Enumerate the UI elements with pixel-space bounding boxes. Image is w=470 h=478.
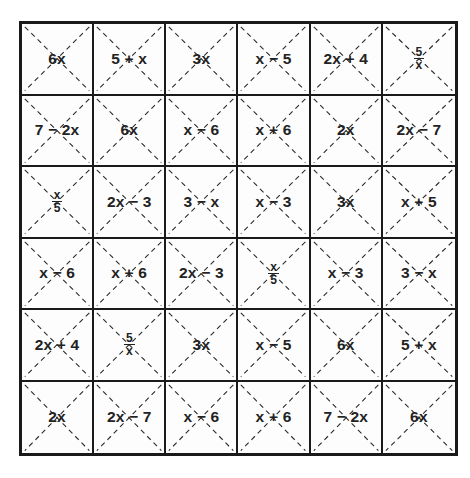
- expression-label: 6x: [337, 336, 355, 354]
- grid-cell-r5-c6: 5 + x: [383, 310, 455, 382]
- expression-label: 2x − 3: [107, 193, 152, 211]
- grid-cell-r1-c4: x − 5: [238, 24, 310, 96]
- grid-cell-r4-c1: x − 6: [22, 239, 94, 311]
- grid-cell-r6-c5: 7 − 2x: [311, 382, 383, 454]
- grid-cell-r2-c2: 6x: [94, 96, 166, 168]
- fraction-denominator: 5: [52, 202, 63, 214]
- grid-cell-r1-c6: 5x: [383, 24, 455, 96]
- expression-label: x + 5: [401, 193, 437, 211]
- grid-cell-r3-c5: 3x: [311, 167, 383, 239]
- grid-cell-r2-c3: x − 6: [166, 96, 238, 168]
- grid-cell-r2-c4: x + 6: [238, 96, 310, 168]
- fraction-denominator: x: [124, 345, 135, 357]
- grid-cell-r4-c5: x − 3: [311, 239, 383, 311]
- grid-cell-r6-c2: 2x − 7: [94, 382, 166, 454]
- expression-label: x − 5: [256, 336, 292, 354]
- grid-cell-r6-c3: x − 6: [166, 382, 238, 454]
- expression-label: 3 − x: [183, 193, 219, 211]
- grid-cell-r2-c6: 2x − 7: [383, 96, 455, 168]
- grid-cell-r5-c3: 3x: [166, 310, 238, 382]
- fraction-numerator: x: [268, 261, 279, 274]
- grid-cell-r6-c6: 6x: [383, 382, 455, 454]
- grid-cell-r2-c1: 7 − 2x: [22, 96, 94, 168]
- grid-cell-r4-c3: 2x − 3: [166, 239, 238, 311]
- expression-label: 6x: [48, 50, 66, 68]
- expression-label: 3x: [193, 50, 211, 68]
- grid-cell-r4-c2: x + 6: [94, 239, 166, 311]
- expression-label: 2x − 7: [107, 408, 152, 426]
- grid-cell-r4-c4: x5: [238, 239, 310, 311]
- fraction-denominator: 5: [268, 274, 279, 286]
- expression-grid-puzzle: 6x5 + x3xx − 52x + 45x7 − 2x6xx − 6x + 6…: [19, 21, 458, 456]
- grid-cell-r1-c1: 6x: [22, 24, 94, 96]
- fraction-denominator: x: [414, 59, 425, 71]
- expression-label: x + 6: [256, 121, 292, 139]
- expression-label: x − 6: [39, 264, 75, 282]
- grid-cell-r3-c3: 3 − x: [166, 167, 238, 239]
- expression-label: 2x: [337, 121, 355, 139]
- expression-label: x − 6: [183, 121, 219, 139]
- expression-label: x − 6: [183, 408, 219, 426]
- grid-cell-r6-c1: 2x: [22, 382, 94, 454]
- expression-label: 2x − 7: [397, 121, 442, 139]
- fraction-expression: 5x: [124, 332, 135, 357]
- grid-cell-r3-c6: x + 5: [383, 167, 455, 239]
- expression-label: 5 + x: [111, 50, 147, 68]
- grid-cell-r5-c4: x − 5: [238, 310, 310, 382]
- expression-label: 7 − 2x: [323, 408, 368, 426]
- expression-label: 3x: [193, 336, 211, 354]
- expression-label: 3 − x: [401, 264, 437, 282]
- expression-label: 3x: [337, 193, 355, 211]
- expression-label: 5 + x: [401, 336, 437, 354]
- grid-cell-r6-c4: x + 6: [238, 382, 310, 454]
- grid-cell-r1-c3: 3x: [166, 24, 238, 96]
- grid-cell-r5-c2: 5x: [94, 310, 166, 382]
- expression-label: 2x: [48, 408, 66, 426]
- expression-label: 6x: [410, 408, 428, 426]
- expression-label: x + 6: [111, 264, 147, 282]
- grid-cell-r5-c5: 6x: [311, 310, 383, 382]
- expression-label: 2x + 4: [323, 50, 368, 68]
- grid-cell-r3-c2: 2x − 3: [94, 167, 166, 239]
- fraction-expression: x5: [268, 261, 279, 286]
- grid-cell-r3-c1: x5: [22, 167, 94, 239]
- expression-label: 2x + 4: [35, 336, 80, 354]
- expression-label: x − 3: [256, 193, 292, 211]
- expression-label: 7 − 2x: [35, 121, 80, 139]
- grid-cell-r3-c4: x − 3: [238, 167, 310, 239]
- expression-label: x + 6: [256, 408, 292, 426]
- expression-label: x − 3: [328, 264, 364, 282]
- grid-cell-r4-c6: 3 − x: [383, 239, 455, 311]
- fraction-expression: 5x: [414, 46, 425, 71]
- expression-label: 6x: [120, 121, 138, 139]
- fraction-expression: x5: [52, 189, 63, 214]
- grid-cell-r5-c1: 2x + 4: [22, 310, 94, 382]
- expression-label: 2x − 3: [179, 264, 224, 282]
- grid-cell-r1-c5: 2x + 4: [311, 24, 383, 96]
- grid-cell-r1-c2: 5 + x: [94, 24, 166, 96]
- expression-label: x − 5: [256, 50, 292, 68]
- grid-cell-r2-c5: 2x: [311, 96, 383, 168]
